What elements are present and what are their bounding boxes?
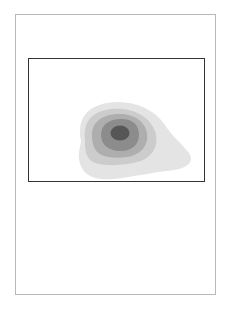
contour-plot-area — [28, 58, 205, 182]
contour-level-5-peak — [111, 126, 130, 141]
contour-plot — [29, 59, 205, 182]
